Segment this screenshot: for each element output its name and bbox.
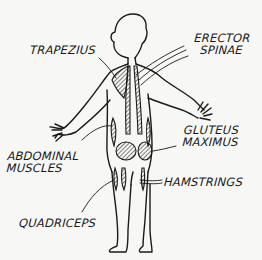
hamstring-left <box>122 168 126 190</box>
quadriceps-muscle <box>114 168 117 190</box>
gluteus-left <box>116 142 136 160</box>
label-hamstrings: HAMSTRINGS <box>164 176 244 188</box>
left-leg <box>109 172 131 252</box>
label-erector-spinae: ERECTOR SPINAE <box>191 32 253 56</box>
left-hand <box>52 124 64 141</box>
label-gluteus-maximus: GLUTEUS MAXIMUS <box>177 124 245 148</box>
label-gluteus-maximus-line2: MAXIMUS <box>177 136 244 148</box>
leader-gluteus <box>153 146 176 151</box>
muscle-diagram: TRAPEZIUS ERECTOR SPINAE GLUTEUS MAXIMUS… <box>0 0 262 260</box>
abdominal-left <box>111 118 116 146</box>
head-outline <box>111 14 147 58</box>
leader-erector-spinae-2 <box>139 50 186 80</box>
label-quadriceps: QUADRICEPS <box>19 217 97 229</box>
label-abdominal-muscles-line2: MUSCLES <box>6 162 78 174</box>
leader-hamstrings-2 <box>140 183 162 184</box>
gluteus-right <box>138 142 152 160</box>
leader-quadriceps <box>82 180 114 212</box>
right-hand <box>198 102 212 120</box>
label-abdominal-muscles: ABDOMINAL MUSCLES <box>6 150 79 174</box>
torso-right-outline <box>136 64 204 110</box>
leader-hamstrings-1 <box>140 180 162 181</box>
label-erector-spinae-line2: SPINAE <box>191 44 252 56</box>
label-trapezius: TRAPEZIUS <box>30 44 97 56</box>
erector-spinae-right <box>134 66 142 134</box>
hamstring-right <box>141 168 144 190</box>
